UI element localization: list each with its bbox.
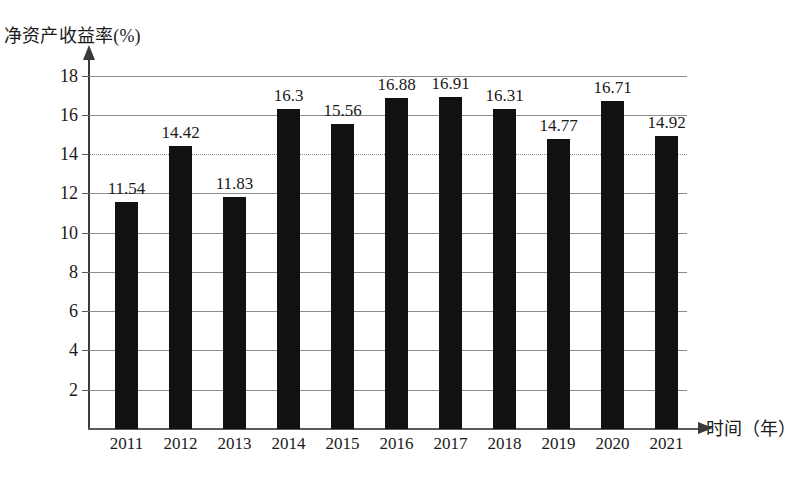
- y-tick-label-16: 16: [38, 106, 78, 124]
- y-tick-mark-10: [82, 233, 89, 234]
- x-tick-label-2012: 2012: [154, 434, 208, 454]
- bar-2020: [601, 101, 624, 429]
- bar-value-2021: 14.92: [637, 114, 697, 132]
- y-tick-label-4: 4: [38, 341, 78, 359]
- x-tick-label-2017: 2017: [424, 434, 478, 454]
- bar-value-2012: 14.42: [151, 124, 211, 142]
- y-tick-mark-14: [82, 154, 89, 155]
- bar-2012: [169, 146, 192, 429]
- bar-2019: [547, 139, 570, 429]
- x-tick-label-2018: 2018: [478, 434, 532, 454]
- bar-2015: [331, 124, 354, 429]
- y-tick-mark-6: [82, 311, 89, 312]
- x-tick-label-2020: 2020: [586, 434, 640, 454]
- bar-2016: [385, 98, 408, 429]
- bar-2021: [655, 136, 678, 429]
- x-tick-label-2021: 2021: [640, 434, 694, 454]
- y-tick-label-6: 6: [38, 302, 78, 320]
- bar-value-2017: 16.91: [421, 75, 481, 93]
- x-tick-label-2011: 2011: [100, 434, 154, 454]
- bar-2011: [115, 202, 138, 429]
- x-tick-label-2014: 2014: [262, 434, 316, 454]
- x-axis-arrow-icon: [698, 422, 713, 434]
- y-tick-label-10: 10: [38, 224, 78, 242]
- bar-value-2011: 11.54: [97, 180, 157, 198]
- reo-bar-chart: 净资产收益率(%) 时间（年） 24681012141618 11.5414.4…: [0, 0, 811, 479]
- bar-value-2015: 15.56: [313, 102, 373, 120]
- bar-value-2019: 14.77: [529, 117, 589, 135]
- x-tick-label-2015: 2015: [316, 434, 370, 454]
- bar-2013: [223, 197, 246, 429]
- y-tick-label-12: 12: [38, 184, 78, 202]
- y-tick-label-18: 18: [38, 67, 78, 85]
- y-tick-mark-4: [82, 350, 89, 351]
- x-tick-label-2013: 2013: [208, 434, 262, 454]
- bar-value-2018: 16.31: [475, 87, 535, 105]
- y-tick-mark-2: [82, 390, 89, 391]
- x-tick-label-2019: 2019: [532, 434, 586, 454]
- bar-2017: [439, 97, 462, 429]
- y-tick-mark-8: [82, 272, 89, 273]
- y-tick-mark-16: [82, 115, 89, 116]
- bar-value-2013: 11.83: [205, 175, 265, 193]
- y-axis-line: [88, 58, 90, 429]
- y-tick-label-2: 2: [38, 381, 78, 399]
- bar-value-2014: 16.3: [259, 87, 319, 105]
- x-tick-label-2016: 2016: [370, 434, 424, 454]
- y-tick-mark-18: [82, 76, 89, 77]
- y-tick-mark-12: [82, 193, 89, 194]
- bar-value-2020: 16.71: [583, 79, 643, 97]
- y-tick-label-8: 8: [38, 263, 78, 281]
- y-tick-label-14: 14: [38, 145, 78, 163]
- x-axis-title: 时间（年）: [706, 418, 796, 440]
- bar-2014: [277, 109, 300, 429]
- bar-value-2016: 16.88: [367, 76, 427, 94]
- bar-2018: [493, 109, 516, 429]
- y-axis-title: 净资产收益率(%): [4, 25, 141, 47]
